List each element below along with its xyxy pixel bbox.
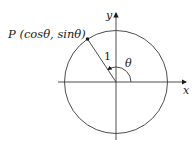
angle-label: θ: [125, 57, 132, 70]
radius-line: [88, 39, 117, 82]
y-axis-label: y: [105, 9, 113, 22]
point-label: P (cosθ, sinθ): [7, 27, 86, 41]
radius-label: 1: [104, 50, 111, 63]
unit-circle-diagram: P (cosθ, sinθ) 1 θ x y: [0, 0, 195, 144]
x-axis-label: x: [183, 84, 190, 97]
point-p: [86, 37, 90, 41]
